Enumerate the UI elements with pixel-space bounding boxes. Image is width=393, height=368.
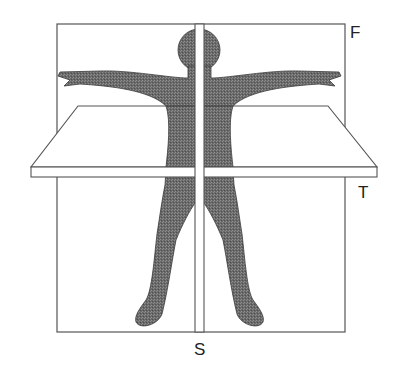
- anatomical-planes-diagram: F T S: [0, 0, 393, 368]
- frontal-plane-label: F: [350, 23, 360, 42]
- sagittal-plane: [195, 24, 204, 332]
- transverse-plane-label: T: [358, 183, 368, 202]
- sagittal-plane-label: S: [194, 340, 205, 359]
